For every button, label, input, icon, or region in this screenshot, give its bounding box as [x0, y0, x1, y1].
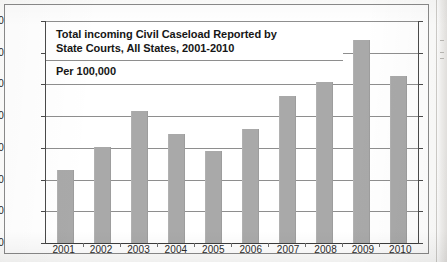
y-axis-tick: [41, 148, 46, 149]
x-axis-tick-label-2002: 2002: [82, 244, 119, 255]
chart-title-line-1: Total incoming Civil Caseload Reported b…: [56, 27, 335, 41]
y-axis-tick-label: 5,000: [0, 237, 4, 248]
bar-2002: [94, 147, 111, 243]
bar-2004: [168, 134, 185, 243]
bar-2003: [131, 111, 148, 243]
gutter-mark: [440, 52, 444, 53]
y-axis-tick-label: 6,400: [0, 15, 4, 26]
bar-slot: [343, 21, 380, 243]
y-axis-tick-label: 5,400: [0, 174, 4, 185]
y-axis-tick-right: [418, 53, 423, 54]
x-axis-tick-label-2010: 2010: [382, 244, 419, 255]
x-axis-tick-label-2004: 2004: [157, 244, 194, 255]
y-axis-tick: [41, 180, 46, 181]
x-axis-tick-label-2005: 2005: [195, 244, 232, 255]
y-axis-tick-right: [418, 116, 423, 117]
page-gutter: [436, 0, 447, 262]
bar-2001: [57, 170, 74, 243]
y-axis-tick-label: 5,600: [0, 142, 4, 153]
chart-frame: 6,4006,2006,0005,8005,6005,4005,2005,000…: [4, 4, 429, 254]
chart-title: Total incoming Civil Caseload Reported b…: [46, 22, 343, 61]
x-axis-tick-labels: 2001200220032004200520062007200820092010: [45, 244, 419, 255]
bar-slot: [380, 21, 417, 243]
bar-2010: [390, 76, 407, 243]
bar-2007: [279, 96, 296, 243]
chart-title-block: Total incoming Civil Caseload Reported b…: [46, 22, 343, 82]
x-axis-tick-label-2008: 2008: [307, 244, 344, 255]
x-axis-tick-label-2001: 2001: [45, 244, 82, 255]
chart-title-line-2: State Courts, All States, 2001-2010: [56, 41, 335, 55]
x-axis-tick-label-2009: 2009: [344, 244, 381, 255]
y-axis-tick-label: 6,000: [0, 78, 4, 89]
bar-2005: [205, 151, 222, 243]
chart-figure: 6,4006,2006,0005,8005,6005,4005,2005,000…: [0, 0, 447, 262]
gutter-mark: [440, 58, 444, 59]
y-axis-tick-right: [418, 211, 423, 212]
x-axis-tick-label-2007: 2007: [269, 244, 306, 255]
x-axis-tick-label-2006: 2006: [232, 244, 269, 255]
y-axis-tick-right: [418, 21, 423, 22]
y-axis-tick-label: 5,800: [0, 110, 4, 121]
y-axis-tick: [41, 211, 46, 212]
y-axis-tick: [41, 116, 46, 117]
y-axis-tick: [41, 84, 46, 85]
y-axis-tick-label: 6,200: [0, 47, 4, 58]
y-axis-tick-label: 5,200: [0, 205, 4, 216]
y-axis-tick-right: [418, 180, 423, 181]
chart-subtitle: Per 100,000: [46, 61, 343, 82]
y-axis-tick-right: [418, 84, 423, 85]
x-axis-tick-label-2003: 2003: [120, 244, 157, 255]
gutter-mark: [440, 40, 444, 41]
bar-2009: [353, 40, 370, 243]
y-axis-tick-right: [418, 148, 423, 149]
bar-2006: [242, 129, 259, 243]
